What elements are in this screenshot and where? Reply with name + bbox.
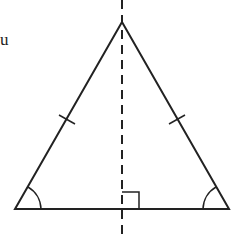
angle-arc-left	[28, 187, 41, 209]
triangle-diagram	[0, 0, 235, 234]
right-angle-mark	[122, 192, 139, 209]
angle-arc-right	[203, 187, 216, 209]
